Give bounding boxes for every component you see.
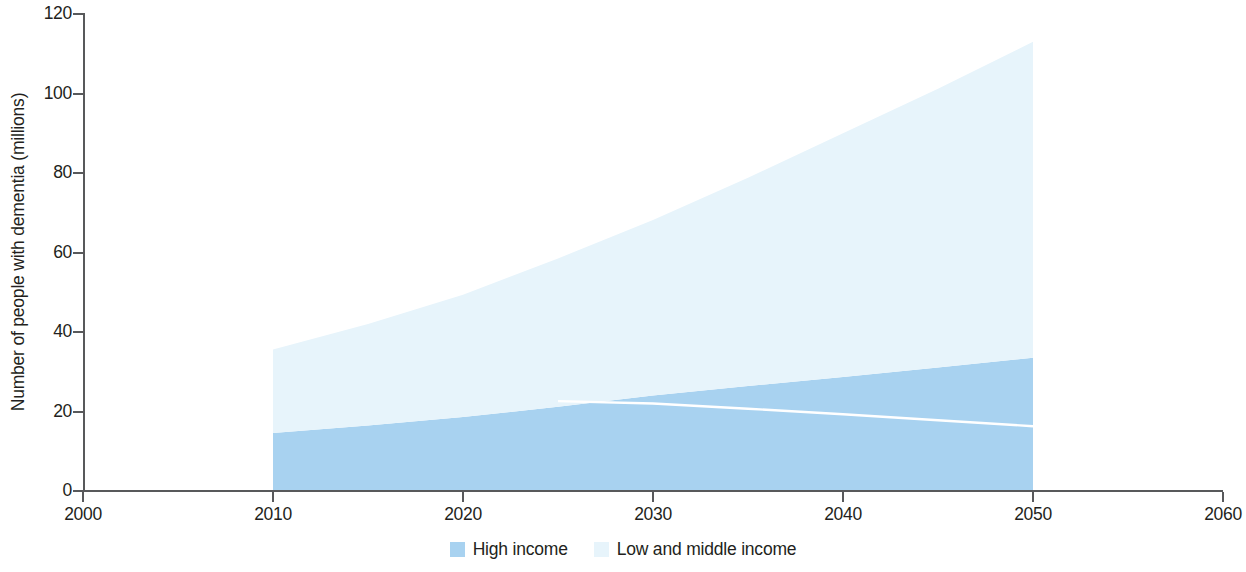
y-tick-mark — [73, 172, 84, 174]
x-tick-mark — [1032, 492, 1034, 502]
legend-label-low-and-middle-income: Low and middle income — [617, 539, 797, 560]
y-tick-mark — [73, 252, 84, 254]
y-tick-label: 80 — [53, 164, 72, 182]
area-band-plot — [0, 0, 1246, 572]
legend-label-high-income: High income — [473, 539, 568, 560]
y-tick-label: 120 — [44, 5, 72, 23]
legend-swatch-low-and-middle-income — [594, 542, 609, 557]
x-tick-label: 2030 — [613, 506, 693, 524]
y-tick-label: 20 — [53, 403, 72, 421]
x-tick-label: 2050 — [993, 506, 1073, 524]
x-tick-mark — [272, 492, 274, 502]
overlay-trend-line — [558, 401, 1033, 426]
x-tick-mark — [82, 492, 84, 502]
x-tick-mark — [462, 492, 464, 502]
x-tick-mark — [842, 492, 844, 502]
y-tick-mark — [73, 93, 84, 95]
legend-item-low-and-middle-income: Low and middle income — [594, 539, 797, 560]
y-tick-label: 100 — [44, 85, 72, 103]
area-band-high-income — [273, 358, 1033, 491]
y-tick-mark — [73, 331, 84, 333]
x-tick-mark — [1222, 492, 1224, 502]
legend-item-high-income: High income — [450, 539, 568, 560]
y-tick-label: 0 — [63, 482, 72, 500]
x-tick-label: 2020 — [423, 506, 503, 524]
y-tick-label: 40 — [53, 323, 72, 341]
x-tick-label: 2010 — [233, 506, 313, 524]
y-tick-label: 60 — [53, 244, 72, 262]
y-tick-mark — [73, 411, 84, 413]
area-band-low-and-middle-income — [273, 42, 1033, 433]
chart-legend: High income Low and middle income — [0, 539, 1246, 560]
x-tick-label: 2060 — [1183, 506, 1246, 524]
y-axis-title: Number of people with dementia (millions… — [3, 2, 33, 502]
legend-swatch-high-income — [450, 542, 465, 557]
dementia-projection-chart: Number of people with dementia (millions… — [0, 0, 1246, 572]
x-tick-label: 2040 — [803, 506, 883, 524]
x-tick-mark — [652, 492, 654, 502]
y-tick-mark — [73, 13, 84, 15]
x-tick-label: 2000 — [43, 506, 123, 524]
